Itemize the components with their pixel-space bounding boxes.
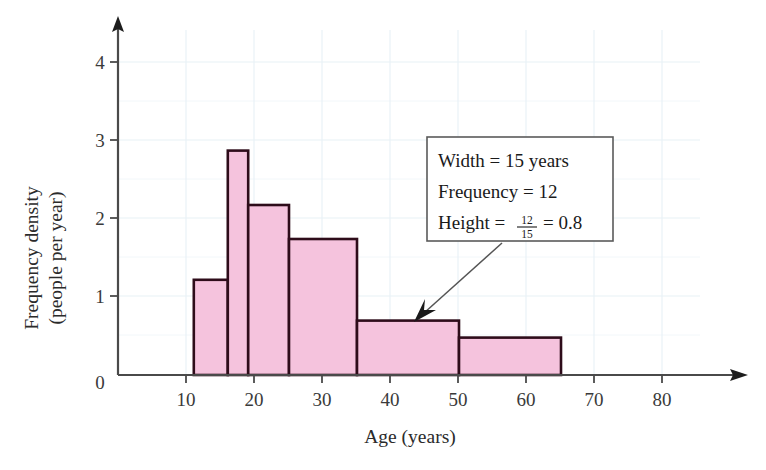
x-axis-tick-labels: 10 20 30 40 50 60 70 80: [177, 389, 672, 410]
bar-11-16: [194, 280, 228, 375]
y-axis-title-line1: Frequency density: [21, 186, 42, 330]
x-tick-label-50: 50: [449, 389, 468, 410]
bar-50-65: [459, 338, 561, 375]
callout-fraction-denominator: 15: [521, 228, 533, 240]
annotation-callout: Width = 15 years Frequency = 12 Height =…: [427, 137, 613, 241]
x-tick-label-40: 40: [381, 389, 400, 410]
y-tick-label-0: 0: [95, 372, 105, 393]
bar-19-25: [248, 205, 289, 375]
y-axis-title-line2: (people per year): [45, 191, 67, 324]
bar-25-35: [289, 239, 357, 375]
y-tick-label-1: 1: [95, 286, 105, 307]
x-tick-label-20: 20: [245, 389, 264, 410]
y-tick-label-2: 2: [95, 208, 105, 229]
callout-fraction-numerator: 12: [521, 214, 533, 226]
x-tick-label-70: 70: [585, 389, 604, 410]
callout-line-height-prefix: Height =: [438, 212, 505, 233]
y-axis-ticks: [110, 62, 118, 296]
x-tick-label-10: 10: [177, 389, 196, 410]
callout-line-width: Width = 15 years: [438, 150, 569, 171]
y-axis-tick-labels: 4 3 2 1 0: [95, 52, 105, 393]
histogram-chart: 4 3 2 1 0 10 20 30 40 50 60 70 80 Freque…: [0, 0, 766, 470]
x-tick-label-80: 80: [653, 389, 672, 410]
callout-line-frequency: Frequency = 12: [438, 181, 557, 202]
x-tick-label-30: 30: [313, 389, 332, 410]
bar-35-50: [357, 321, 459, 375]
y-tick-label-4: 4: [95, 52, 105, 73]
bar-16-19: [228, 151, 248, 375]
y-tick-label-3: 3: [95, 130, 105, 151]
x-axis-title: Age (years): [364, 426, 456, 448]
x-tick-label-60: 60: [517, 389, 536, 410]
callout-line-height-suffix: = 0.8: [543, 212, 582, 233]
